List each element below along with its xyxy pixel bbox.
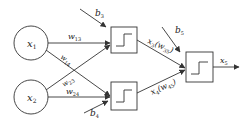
svg-text:x1: x1 xyxy=(27,38,36,50)
edge-w24: w24 xyxy=(48,87,110,97)
bias-b4: b4 xyxy=(84,101,108,119)
edge-w14: w14 xyxy=(46,50,110,96)
neural-network-diagram: x1 x2 w13 w14 w23 w24 b3 b4 x3(w xyxy=(0,0,250,122)
input-node-x1: x1 xyxy=(14,26,48,60)
step-function-icon xyxy=(116,90,132,102)
svg-text:x2: x2 xyxy=(27,92,37,104)
input-node-x2: x2 xyxy=(14,80,48,114)
edge-x3-w35: x3(w35) xyxy=(137,37,185,68)
bias-b3: b3 xyxy=(80,8,106,27)
svg-text:b4: b4 xyxy=(90,108,99,119)
svg-text:w24: w24 xyxy=(66,87,79,97)
step-function-icon xyxy=(191,62,208,74)
edge-x4-w45: x4(w45) xyxy=(137,70,185,98)
output-node-5 xyxy=(186,52,213,82)
hidden-node-3 xyxy=(111,27,137,53)
svg-text:b5: b5 xyxy=(175,25,184,36)
svg-text:w14: w14 xyxy=(58,53,73,68)
hidden-node-4 xyxy=(111,82,137,110)
svg-text:b3: b3 xyxy=(95,8,104,19)
svg-text:x5: x5 xyxy=(220,56,228,66)
output-x5: x5 xyxy=(213,56,239,67)
svg-text:w13: w13 xyxy=(68,32,81,42)
edge-w13: w13 xyxy=(48,32,110,43)
step-function-icon xyxy=(116,34,132,46)
edge-w23: w23 xyxy=(46,45,110,90)
